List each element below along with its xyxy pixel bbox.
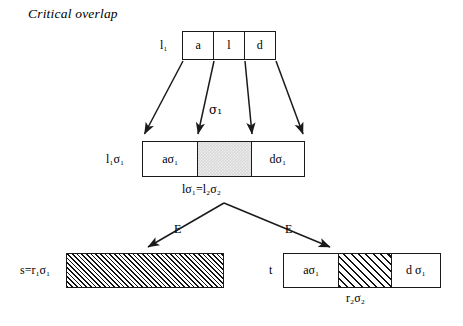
e-arrow-left	[148, 203, 224, 247]
middle-box-below-label: lσ₁=l₂σ₂	[182, 182, 221, 197]
top-box-cell-l: l	[213, 32, 243, 59]
bottom-right-box-left-label: t	[269, 253, 272, 288]
sigma-arrow-3	[245, 61, 252, 134]
branch-label-left: E	[174, 222, 181, 237]
bottom-right-box: aσ₁ d σ₁	[283, 253, 441, 288]
bottom-left-box-left-label: s=r₁σ₁	[20, 253, 50, 288]
bottom-left-box-cell-hatched	[67, 254, 223, 287]
middle-box-cell-shaded	[197, 142, 250, 176]
middle-box-cell-a-sigma: aσ₁	[143, 142, 197, 176]
bottom-right-box-cell-d-sigma: d σ₁	[391, 254, 440, 287]
figure-title: Critical overlap	[28, 6, 118, 22]
diagram-canvas: Critical overlap l₁ a l d	[0, 0, 463, 326]
top-box-cell-a: a	[183, 32, 213, 59]
middle-box-cell-d-sigma: dσ₁	[251, 142, 304, 176]
bottom-right-box-below-label: r₂σ₂	[346, 291, 365, 306]
bottom-left-box	[66, 253, 224, 288]
top-box: a l d	[182, 31, 276, 60]
top-box-left-label: l₁	[160, 31, 168, 60]
bottom-right-box-cell-a-sigma: aσ₁	[284, 254, 338, 287]
sigma-arrow-1	[145, 61, 184, 134]
branch-label-right: E	[285, 222, 292, 237]
e-arrow-right	[224, 203, 330, 247]
substitution-label: σ₁	[209, 103, 222, 117]
middle-box: aσ₁ dσ₁	[142, 141, 305, 177]
sigma-arrow-2	[198, 61, 214, 134]
top-box-cell-d: d	[244, 32, 275, 59]
middle-box-left-label: l₁σ₁	[106, 141, 124, 177]
sigma-arrow-4	[276, 61, 303, 134]
bottom-right-box-cell-hatched	[338, 254, 390, 287]
